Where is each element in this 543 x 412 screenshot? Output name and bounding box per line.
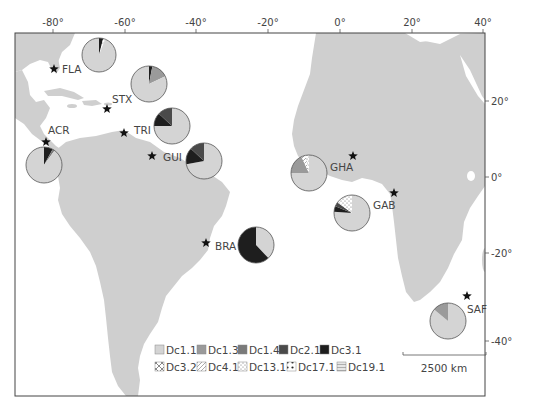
x-tick-label: -40° — [185, 17, 206, 28]
legend-item-Dc4-1: Dc4.1 — [197, 361, 239, 373]
haplotype-legend: Dc1.1Dc1.3Dc1.4Dc2.1Dc3.1Dc3.2Dc4.1Dc13.… — [155, 344, 385, 373]
site-label: TRI — [133, 124, 151, 136]
site-stx: STX — [102, 66, 167, 113]
land-puerto-rico — [104, 103, 112, 106]
y-tick-label: -40° — [491, 336, 512, 347]
legend-label: Dc3.2 — [166, 361, 197, 373]
pie-chart — [186, 143, 222, 179]
legend-label: Dc17.1 — [298, 361, 335, 373]
star-icon — [462, 291, 472, 300]
legend-item-Dc1-4: Dc1.4 — [238, 344, 280, 356]
y-tick-label: -20° — [491, 248, 512, 259]
land-central-america — [15, 70, 62, 152]
x-tick-label: 40° — [474, 17, 492, 28]
lesotho-spot — [451, 290, 459, 296]
legend-item-Dc1-3: Dc1.3 — [197, 344, 239, 356]
pie-chart — [430, 303, 466, 339]
legend-label: Dc1.4 — [249, 344, 280, 356]
x-tick-label: -80° — [42, 17, 63, 28]
y-tick-label: 0° — [491, 172, 502, 183]
legend-item-Dc13-1: Dc13.1 — [238, 361, 286, 373]
legend-label: Dc1.3 — [208, 344, 239, 356]
pie-chart — [291, 155, 327, 191]
legend-label: Dc4.1 — [208, 361, 239, 373]
legend-item-Dc3-1: Dc3.1 — [320, 344, 362, 356]
haplotype-map: -80°-60°-40°-20°0°20°40° 20°0°-20°-40° F… — [0, 0, 543, 412]
site-label: STX — [112, 93, 132, 105]
legend-label: Dc2.1 — [290, 344, 321, 356]
pie-chart — [26, 147, 62, 183]
scale-bar-label: 2500 km — [421, 362, 467, 374]
legend-swatch — [238, 362, 247, 371]
land-cuba — [44, 88, 84, 100]
legend-swatch — [155, 345, 164, 354]
legend-swatch — [238, 345, 247, 354]
legend-item-Dc2-1: Dc2.1 — [279, 344, 321, 356]
legend-item-Dc1-1: Dc1.1 — [155, 344, 197, 356]
legend-label: Dc3.1 — [331, 344, 362, 356]
pie-chart — [238, 227, 274, 263]
x-tick-label: -60° — [114, 17, 135, 28]
pie-chart — [154, 108, 190, 144]
y-axis-ticks: 20°0°-20°-40° — [485, 96, 512, 347]
site-bra: BRA — [201, 227, 274, 263]
pie-chart — [82, 38, 116, 72]
legend-item-Dc17-1: Dc17.1 — [287, 361, 335, 373]
x-tick-label: 0° — [334, 17, 345, 28]
x-axis-ticks: -80°-60°-40°-20°0°20°40° — [42, 17, 492, 33]
legend-label: Dc19.1 — [348, 361, 385, 373]
legend-swatch — [279, 345, 288, 354]
site-label: ACR — [48, 124, 70, 136]
legend-item-Dc19-1: Dc19.1 — [337, 361, 385, 373]
land-masses — [15, 33, 488, 396]
x-tick-label: 20° — [403, 17, 421, 28]
site-label: BRA — [215, 240, 237, 252]
pie-chart — [334, 195, 370, 231]
site-label: SAF — [467, 303, 487, 315]
lake — [467, 171, 475, 181]
star-icon — [102, 104, 112, 113]
spot — [464, 279, 469, 284]
site-saf: SAF — [430, 291, 487, 339]
y-tick-label: 20° — [491, 96, 509, 107]
land-jamaica — [67, 104, 77, 108]
legend-swatch — [197, 362, 206, 371]
legend-label: Dc1.1 — [166, 344, 197, 356]
site-label: GAB — [373, 199, 396, 211]
legend-label: Dc13.1 — [249, 361, 286, 373]
land-hispaniola — [82, 100, 102, 106]
site-label: GHA — [330, 161, 354, 173]
legend-item-Dc3-2: Dc3.2 — [155, 361, 197, 373]
legend-swatch — [337, 362, 346, 371]
legend-swatch — [287, 362, 296, 371]
pie-chart — [131, 66, 167, 102]
x-tick-label: -20° — [257, 17, 278, 28]
scale-bar: 2500 km — [403, 352, 486, 374]
legend-swatch — [320, 345, 329, 354]
site-label: FLA — [62, 63, 82, 75]
legend-swatch — [155, 362, 164, 371]
site-gab: GAB — [334, 188, 399, 231]
legend-swatch — [197, 345, 206, 354]
site-label: GUI — [163, 151, 182, 163]
